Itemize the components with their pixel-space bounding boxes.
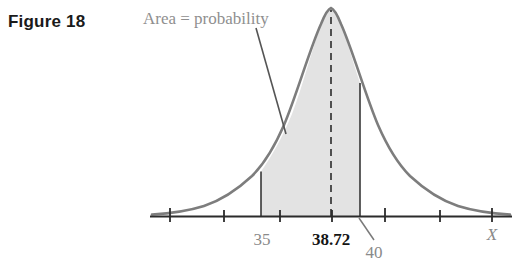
tick-label-40: 40 <box>366 243 383 262</box>
annotation-leader-line <box>256 28 286 134</box>
area-probability-annotation: Area = probability <box>143 9 269 28</box>
label-40-leader-line <box>359 218 374 240</box>
normal-distribution-diagram: Area = probability 35 38.72 40 X <box>0 0 520 264</box>
figure-container: Figure 18 Area = probability <box>0 0 520 264</box>
x-axis-label: X <box>486 225 498 244</box>
tick-label-mean: 38.72 <box>312 230 350 249</box>
tick-label-35: 35 <box>254 230 271 249</box>
shaded-area-region <box>261 8 360 216</box>
